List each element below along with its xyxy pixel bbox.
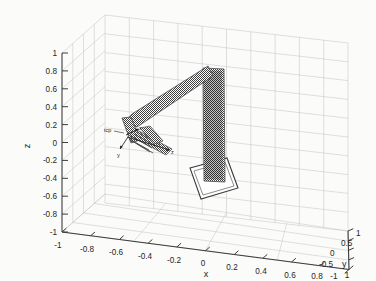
x-tick-label: -0.6 bbox=[109, 248, 124, 257]
z-tick-label: 0.2 bbox=[46, 121, 58, 130]
x-tick-label: -0.4 bbox=[138, 252, 153, 261]
x-tick-label: 1 bbox=[345, 271, 350, 280]
tcp-frame-z-label: z bbox=[171, 149, 174, 155]
robot-3d-plot: tcp x z y 1 0.8 bbox=[0, 0, 376, 281]
z-tick-label: -0.6 bbox=[43, 192, 58, 201]
z-tick-label: -0.8 bbox=[43, 210, 58, 219]
y-tick-label: -0.5 bbox=[319, 260, 334, 269]
x-tick-label: 0.6 bbox=[284, 271, 296, 280]
x-tick-label: -1 bbox=[54, 241, 62, 250]
y-tick-label: 0 bbox=[330, 249, 335, 258]
z-axis-title: z bbox=[22, 143, 32, 148]
z-tick-label: -0.4 bbox=[43, 174, 58, 183]
z-tick-label: 0.4 bbox=[46, 103, 58, 112]
x-tick-label: 0.8 bbox=[311, 272, 323, 281]
tcp-frame-y-label: y bbox=[117, 152, 120, 158]
z-tick-label: -0.2 bbox=[43, 156, 58, 165]
tcp-frame-x-label: x bbox=[139, 125, 142, 131]
x-tick-label: -0.2 bbox=[167, 256, 182, 265]
z-tick-label: 0.8 bbox=[46, 67, 58, 76]
z-tick-label: 0 bbox=[52, 139, 57, 148]
robot-link-column bbox=[203, 68, 225, 182]
y-axis-title: y bbox=[342, 259, 347, 269]
x-tick-label: 0.4 bbox=[255, 267, 267, 276]
figure-panel: tcp x z y 1 0.8 bbox=[0, 0, 376, 281]
x-tick-label: -0.8 bbox=[80, 245, 95, 254]
z-tick-label: 0.6 bbox=[46, 85, 58, 94]
y-tick-label: 0.5 bbox=[341, 239, 353, 248]
z-tick-label: -1 bbox=[50, 228, 58, 237]
z-tick-label: 1 bbox=[52, 49, 57, 58]
x-axis-title: x bbox=[204, 269, 209, 279]
x-tick-label: 0.2 bbox=[226, 263, 238, 272]
tcp-label: tcp bbox=[104, 127, 111, 133]
x-tick-label: 0 bbox=[201, 259, 206, 268]
y-tick-label: -1 bbox=[330, 272, 338, 281]
y-tick-label: 1 bbox=[356, 229, 361, 238]
